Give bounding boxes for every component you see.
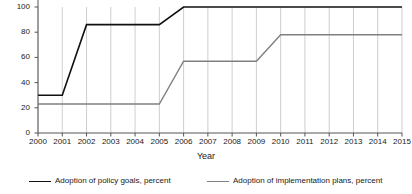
plot-canvas	[38, 7, 402, 133]
x-tick-label: 2011	[296, 137, 313, 147]
legend-item-label: Adoption of implementation plans, percen…	[233, 176, 382, 186]
series-line-0	[38, 7, 402, 95]
chart-legend: Adoption of policy goals, percent Adopti…	[0, 176, 412, 190]
legend-item-implementation-plans: Adoption of implementation plans, percen…	[207, 176, 382, 186]
legend-color-swatch	[29, 181, 51, 182]
x-tick-label: 2009	[247, 137, 265, 147]
x-tick-label: 2000	[29, 137, 47, 147]
line-chart: 020406080100 200020012002200320042005200…	[0, 0, 412, 194]
x-tick-label: 2007	[199, 137, 217, 147]
legend-color-swatch	[207, 181, 229, 182]
x-tick-label: 2001	[53, 137, 71, 147]
y-tick-label: 100	[0, 3, 30, 11]
x-tick-label: 2008	[223, 137, 241, 147]
x-tick-label: 2003	[102, 137, 120, 147]
x-tick-label: 2015	[393, 137, 411, 147]
x-tick-label: 2012	[320, 137, 338, 147]
y-tick-label: 60	[0, 53, 30, 61]
x-tick-label: 2006	[175, 137, 193, 147]
y-axis: 020406080100	[0, 0, 30, 140]
plot-area	[38, 7, 402, 133]
y-tick-label: 40	[0, 79, 30, 87]
x-axis: 2000200120022003200420052006200720082009…	[38, 137, 402, 149]
x-tick-label: 2010	[272, 137, 290, 147]
x-axis-title: Year	[0, 151, 412, 162]
legend-item-label: Adoption of policy goals, percent	[55, 176, 171, 186]
y-tick-label: 0	[0, 129, 30, 137]
y-tick-label: 80	[0, 28, 30, 36]
x-tick-label: 2013	[345, 137, 363, 147]
legend-item-policy-goals: Adoption of policy goals, percent	[29, 176, 171, 186]
x-tick-label: 2005	[150, 137, 168, 147]
x-tick-label: 2014	[369, 137, 387, 147]
series-line-1	[38, 35, 402, 104]
y-tick-label: 20	[0, 104, 30, 112]
x-tick-label: 2004	[126, 137, 144, 147]
x-tick-label: 2002	[78, 137, 96, 147]
